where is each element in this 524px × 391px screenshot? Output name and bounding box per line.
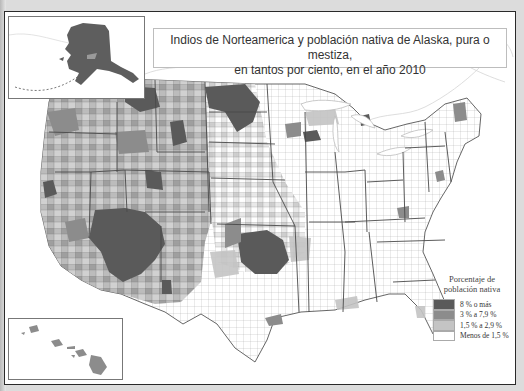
map-title: Indios de Norteamerica y población nativ… <box>153 28 507 68</box>
hawaii-inset <box>8 318 123 380</box>
legend-swatch-medium <box>433 310 455 321</box>
legend-title-line-2: población nativa <box>427 284 516 294</box>
legend-item-3-to-7-9: 3 % a 7,9 % <box>433 310 516 321</box>
title-line-1: Indios de Norteamerica y población nativ… <box>154 33 506 63</box>
hawaii-map <box>9 319 122 379</box>
map-legend: Porcentaje de población nativa 8 % o más… <box>427 274 516 374</box>
map-frame: Indios de Norteamerica y población nativ… <box>4 11 516 385</box>
legend-item-less-than-1-5: Menos de 1,5 % <box>433 331 516 342</box>
legend-label: Menos de 1,5 % <box>460 331 509 340</box>
alaska-inset <box>8 16 145 99</box>
legend-label: 1,5 % a 2,9 % <box>460 321 502 330</box>
legend-label: 8 % o más <box>460 300 491 309</box>
title-line-2: en tantos por ciento, en el año 2010 <box>154 63 506 78</box>
legend-swatch-white <box>433 331 455 342</box>
legend-swatch-light <box>433 320 455 331</box>
legend-item-1-5-to-2-9: 1,5 % a 2,9 % <box>433 320 516 331</box>
legend-item-8-or-more: 8 % o más <box>433 299 516 310</box>
legend-label: 3 % a 7,9 % <box>460 310 496 319</box>
alaska-map <box>9 17 144 98</box>
legend-swatch-dark <box>433 299 455 310</box>
legend-title-line-1: Porcentaje de <box>427 274 516 284</box>
